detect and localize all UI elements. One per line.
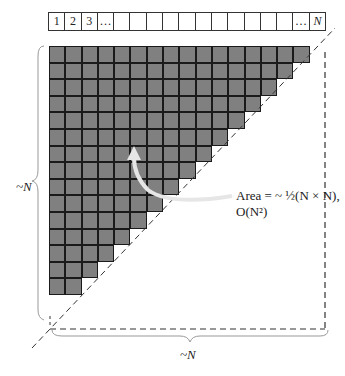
width-label: ~N xyxy=(180,347,196,363)
left-brace xyxy=(32,46,44,320)
complexity-label: O(N²) xyxy=(236,204,267,220)
height-label: ~N xyxy=(16,179,32,195)
bottom-brace xyxy=(52,330,328,342)
area-arrow xyxy=(134,158,232,200)
area-label: Area = ~ ½(N × N), xyxy=(236,188,340,204)
arrow-head-icon xyxy=(127,146,141,160)
